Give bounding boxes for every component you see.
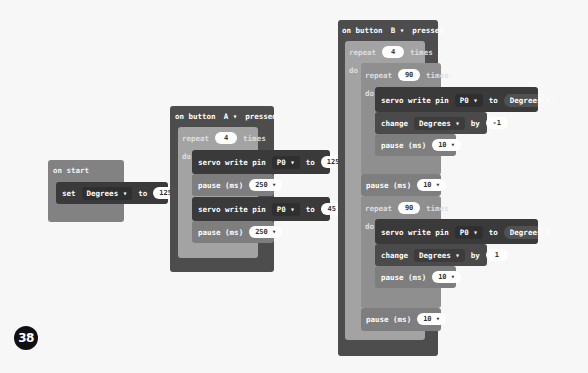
- pause-value-dropdown[interactable]: 250 ▾: [249, 179, 282, 191]
- variable-dropdown[interactable]: Degrees ▾: [82, 187, 133, 200]
- chevron-down-icon: ▾: [436, 315, 440, 323]
- pause-value: 10: [438, 273, 446, 281]
- change-value-input[interactable]: -1: [486, 117, 508, 129]
- do-label: do: [349, 66, 358, 75]
- pause-label: pause (ms): [366, 181, 411, 190]
- on-button-label: on button: [175, 112, 216, 121]
- pin-name: P0: [460, 228, 469, 237]
- servo-write-label: servo write pin: [198, 205, 266, 214]
- servo-write-label: servo write pin: [198, 158, 266, 167]
- times-label: times: [426, 71, 449, 80]
- chevron-down-icon: ▾: [546, 96, 551, 105]
- pin-name: P0: [277, 205, 286, 214]
- servo-write-row: servo write pin P0 ▾ to 125: [198, 154, 345, 170]
- chevron-down-icon: ▾: [290, 205, 295, 214]
- servo-write-row: servo write pin P0 ▾ to 45: [198, 201, 343, 217]
- chevron-down-icon: ▾: [455, 251, 460, 260]
- variable-name: Degrees: [419, 251, 451, 260]
- set-label: set: [62, 189, 76, 198]
- pause-value-dropdown[interactable]: 10 ▾: [432, 271, 461, 283]
- chevron-down-icon: ▾: [436, 181, 440, 189]
- change-variable-row: change Degrees ▾ by -1: [381, 115, 508, 131]
- pause-value: 250: [255, 228, 268, 236]
- pause-row: pause (ms) 10 ▾: [381, 269, 461, 285]
- times-label: times: [410, 48, 433, 57]
- do-row: do: [365, 89, 374, 98]
- repeat-count-input[interactable]: 4: [215, 132, 237, 144]
- variable-dropdown[interactable]: Degrees ▾: [414, 249, 465, 262]
- variable-name: Degrees: [419, 119, 451, 128]
- pause-label: pause (ms): [198, 228, 243, 237]
- pause-value: 10: [423, 315, 431, 323]
- repeat-count-input[interactable]: 4: [382, 46, 404, 58]
- pause-label: pause (ms): [366, 315, 411, 324]
- pressed-label: pressed: [245, 112, 277, 121]
- variable-dropdown[interactable]: Degrees ▾: [414, 117, 465, 130]
- pin-dropdown[interactable]: P0 ▾: [272, 156, 300, 169]
- to-label: to: [306, 205, 315, 214]
- chevron-down-icon: ▾: [451, 273, 455, 281]
- pause-value: 250: [255, 181, 268, 189]
- pause-label: pause (ms): [198, 181, 243, 190]
- times-label: times: [243, 134, 266, 143]
- variable-name: Degrees: [510, 96, 542, 105]
- by-label: by: [471, 119, 480, 128]
- repeat-label: repeat: [365, 204, 392, 213]
- button-name: B: [391, 26, 396, 35]
- by-label: by: [471, 251, 480, 260]
- chevron-down-icon: ▾: [455, 119, 460, 128]
- pause-value-dropdown[interactable]: 10 ▾: [417, 313, 446, 325]
- set-variable-row: set Degrees ▾ to 125: [62, 185, 178, 201]
- inner-repeat-header: repeat 90 times: [365, 67, 449, 83]
- degrees-variable-dropdown[interactable]: Degrees ▾: [504, 94, 557, 107]
- do-label: do: [365, 222, 374, 231]
- servo-write-label: servo write pin: [381, 228, 449, 237]
- button-a-header: on button A ▾ pressed: [175, 112, 277, 121]
- pin-name: P0: [460, 96, 469, 105]
- chevron-down-icon: ▾: [272, 228, 276, 236]
- degrees-variable-dropdown[interactable]: Degrees ▾: [504, 226, 557, 239]
- pause-row: pause (ms) 10 ▾: [366, 311, 446, 327]
- pause-row: pause (ms) 10 ▾: [381, 137, 461, 153]
- chevron-down-icon: ▾: [451, 141, 455, 149]
- chevron-down-icon: ▾: [233, 112, 238, 121]
- inner-repeat-header: repeat 90 times: [365, 200, 449, 216]
- button-name: A: [224, 112, 229, 121]
- pause-label: pause (ms): [381, 141, 426, 150]
- pause-value: 10: [423, 181, 431, 189]
- servo-write-label: servo write pin: [381, 96, 449, 105]
- do-row: do: [365, 222, 374, 231]
- chevron-down-icon: ▾: [272, 181, 276, 189]
- variable-name: Degrees: [87, 189, 119, 198]
- pin-name: P0: [277, 158, 286, 167]
- repeat-label: repeat: [182, 134, 209, 143]
- repeat-count-input[interactable]: 90: [398, 202, 420, 214]
- on-start-header: on start: [53, 166, 89, 175]
- pin-dropdown[interactable]: P0 ▾: [455, 226, 483, 239]
- pin-dropdown[interactable]: P0 ▾: [455, 94, 483, 107]
- pin-dropdown[interactable]: P0 ▾: [272, 203, 300, 216]
- repeat-header: repeat 4 times: [182, 130, 266, 146]
- servo-write-row: servo write pin P0 ▾ to Degrees ▾: [381, 92, 556, 108]
- change-label: change: [381, 251, 408, 260]
- change-label: change: [381, 119, 408, 128]
- pause-value-dropdown[interactable]: 10 ▾: [432, 139, 461, 151]
- variable-name: Degrees: [510, 228, 542, 237]
- repeat-label: repeat: [365, 71, 392, 80]
- pause-label: pause (ms): [381, 273, 426, 282]
- button-dropdown[interactable]: B ▾: [389, 26, 407, 35]
- pause-value-dropdown[interactable]: 250 ▾: [249, 226, 282, 238]
- chevron-down-icon: ▾: [546, 228, 551, 237]
- to-label: to: [306, 158, 315, 167]
- pause-value: 10: [438, 141, 446, 149]
- chevron-down-icon: ▾: [473, 228, 478, 237]
- repeat-count-input[interactable]: 90: [398, 69, 420, 81]
- pause-row: pause (ms) 250 ▾: [198, 224, 282, 240]
- on-button-label: on button: [342, 26, 383, 35]
- chevron-down-icon: ▾: [400, 26, 405, 35]
- button-dropdown[interactable]: A ▾: [222, 112, 240, 121]
- pause-value-dropdown[interactable]: 10 ▾: [417, 179, 446, 191]
- chevron-down-icon: ▾: [290, 158, 295, 167]
- change-value-input[interactable]: 1: [486, 249, 508, 261]
- to-label: to: [489, 228, 498, 237]
